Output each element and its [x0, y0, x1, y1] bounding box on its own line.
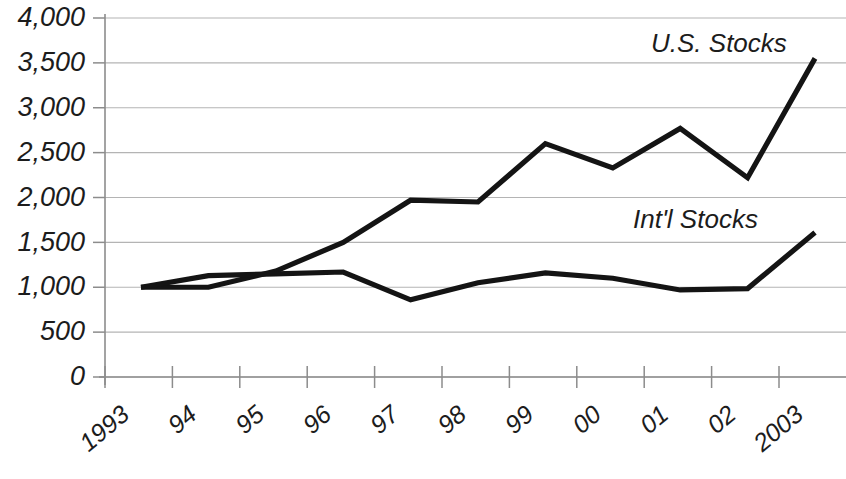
y-axis-tick-label: 3,500 [17, 47, 85, 77]
y-axis-tick-label: 3,000 [17, 92, 85, 122]
y-axis-tick-label: 2,000 [16, 182, 85, 212]
y-axis-tick-label: 500 [40, 316, 85, 346]
x-axis-tick-label: 94 [162, 399, 201, 438]
x-axis-tick-label: 1993 [74, 399, 135, 456]
y-axis-tick-label: 1,000 [17, 271, 85, 301]
x-axis-tick-label: 95 [230, 399, 269, 438]
x-axis-tick-label: 96 [297, 399, 336, 438]
x-axis-tick-label: 00 [567, 399, 606, 438]
x-axis-tick-labels: 19939495969798990001022003 [74, 399, 809, 458]
y-axis-tick-marks [93, 18, 105, 377]
y-axis-tick-labels: 4,0003,5003,0002,5002,0001,5001,0005000 [16, 2, 85, 391]
gridlines-group [105, 18, 846, 377]
series-annotations-group: U.S. StocksInt'l Stocks [633, 28, 787, 234]
y-axis-tick-label: 2,500 [16, 137, 85, 167]
x-axis-tick-label: 2003 [747, 399, 808, 457]
x-axis-tick-label: 97 [365, 399, 405, 439]
chart-canvas: 4,0003,5003,0002,5002,0001,5001,0005000 … [0, 0, 846, 479]
series-annotation-label: U.S. Stocks [651, 28, 787, 58]
x-axis-tick-label: 02 [702, 399, 741, 438]
x-axis-tick-label: 98 [432, 399, 471, 438]
y-axis-tick-label: 0 [70, 361, 85, 391]
x-axis-tick-label: 99 [499, 399, 538, 438]
stock-index-line-chart: 4,0003,5003,0002,5002,0001,5001,0005000 … [0, 0, 846, 479]
series-lines-group [141, 58, 815, 299]
x-axis-tick-label: 01 [634, 399, 673, 438]
y-axis-tick-label: 1,500 [17, 227, 85, 257]
series-annotation-label: Int'l Stocks [633, 204, 758, 234]
y-axis-tick-label: 4,000 [17, 2, 85, 32]
series-line-us-stocks [141, 58, 815, 287]
